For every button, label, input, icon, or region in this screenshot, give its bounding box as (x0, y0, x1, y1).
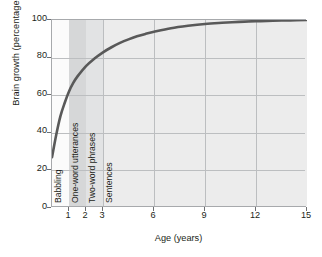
y-tick-label-100: 100 (21, 13, 47, 23)
x-tick-mark-15 (306, 207, 307, 211)
y-tick-label-40: 40 (21, 125, 47, 135)
y-tick-mark-0 (47, 207, 51, 208)
x-tick-mark-12 (255, 207, 256, 211)
y-tick-label-60: 60 (21, 88, 47, 98)
x-axis-title: Age (years) (51, 233, 306, 243)
band-label-one-word-utterances: One-word utterances (70, 123, 80, 203)
x-tick-label-9: 9 (189, 210, 219, 220)
x-tick-mark-1 (68, 207, 69, 211)
band-label-two-word-phrases: Two-word phrases (87, 133, 97, 203)
y-axis-ticks: 020406080100 (17, 0, 47, 257)
x-tick-mark-9 (204, 207, 205, 211)
x-tick-label-15: 15 (291, 210, 321, 220)
y-tick-label-0: 0 (21, 201, 47, 211)
y-tick-mark-80 (47, 57, 51, 58)
brain-growth-chart: Brain growth (percentage of adult size) … (0, 0, 322, 257)
x-tick-label-12: 12 (240, 210, 270, 220)
band-label-sentences: Sentences (104, 162, 114, 203)
y-tick-label-20: 20 (21, 163, 47, 173)
plot-area: BabblingOne-word utterancesTwo-word phra… (51, 19, 306, 207)
x-tick-mark-2 (85, 207, 86, 211)
band-label-babbling: Babbling (53, 170, 63, 203)
y-tick-mark-60 (47, 94, 51, 95)
y-tick-mark-20 (47, 169, 51, 170)
x-tick-mark-6 (153, 207, 154, 211)
x-tick-label-3: 3 (87, 210, 117, 220)
x-tick-mark-3 (102, 207, 103, 211)
y-tick-mark-40 (47, 132, 51, 133)
x-tick-label-6: 6 (138, 210, 168, 220)
y-tick-mark-100 (47, 19, 51, 20)
y-tick-label-80: 80 (21, 50, 47, 60)
y-axis-title-container: Brain growth (percentage of adult size) (0, 14, 16, 208)
